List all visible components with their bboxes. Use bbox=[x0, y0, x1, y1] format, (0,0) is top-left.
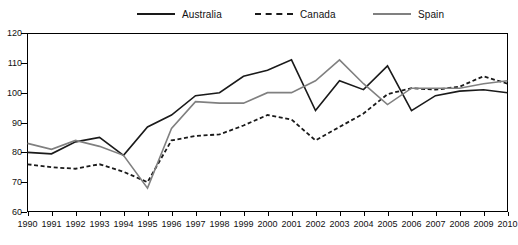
x-axis-tick-mark bbox=[292, 212, 293, 216]
x-axis-tick-mark bbox=[244, 212, 245, 216]
y-axis-tick-label: 110 bbox=[0, 59, 22, 68]
x-axis-tick-mark bbox=[412, 212, 413, 216]
x-axis-tick-mark bbox=[484, 212, 485, 216]
series-line-spain bbox=[28, 60, 508, 188]
line-swatch-icon bbox=[137, 9, 175, 19]
y-axis-tick-label: 100 bbox=[0, 89, 22, 98]
x-axis-tick-mark bbox=[436, 212, 437, 216]
x-axis-tick-mark bbox=[364, 212, 365, 216]
x-axis-tick-mark bbox=[196, 212, 197, 216]
x-axis-tick-mark bbox=[148, 212, 149, 216]
x-axis-tick-mark bbox=[508, 212, 509, 216]
x-axis-tick-mark bbox=[460, 212, 461, 216]
line-chart: Australia Canada Spain 12011010090807060… bbox=[0, 0, 518, 245]
x-axis-tick-mark bbox=[172, 212, 173, 216]
x-axis-tick-mark bbox=[124, 212, 125, 216]
y-axis-tick-label: 70 bbox=[0, 178, 22, 187]
legend-label-spain: Spain bbox=[418, 9, 444, 20]
x-axis-tick-mark bbox=[340, 212, 341, 216]
x-axis-tick-label: 2010 bbox=[493, 220, 518, 229]
x-axis-tick-mark bbox=[76, 212, 77, 216]
dashed-line-swatch-icon bbox=[255, 9, 293, 19]
y-axis-tick-label: 60 bbox=[0, 208, 22, 217]
x-axis-tick-mark bbox=[316, 212, 317, 216]
x-axis-tick-mark bbox=[268, 212, 269, 216]
plot-area: 12011010090807060 1990199119921993199419… bbox=[0, 28, 518, 245]
x-axis-tick-mark bbox=[52, 212, 53, 216]
y-axis-tick-mark bbox=[21, 212, 27, 213]
x-axis-tick-mark bbox=[100, 212, 101, 216]
legend-item-spain: Spain bbox=[373, 6, 444, 22]
y-axis-tick-label: 90 bbox=[0, 119, 22, 128]
series-lines bbox=[27, 33, 508, 212]
line-swatch-icon bbox=[373, 9, 411, 19]
legend-label-canada: Canada bbox=[300, 9, 336, 20]
series-line-australia bbox=[28, 60, 508, 155]
y-axis-tick-label: 120 bbox=[0, 29, 22, 38]
legend-item-canada: Canada bbox=[255, 6, 336, 22]
chart-legend: Australia Canada Spain bbox=[0, 0, 518, 28]
x-axis-tick-mark bbox=[220, 212, 221, 216]
x-axis-tick-mark bbox=[388, 212, 389, 216]
y-axis-tick-label: 80 bbox=[0, 148, 22, 157]
x-axis-tick-mark bbox=[28, 212, 29, 216]
legend-item-australia: Australia bbox=[137, 6, 222, 22]
legend-label-australia: Australia bbox=[182, 9, 222, 20]
